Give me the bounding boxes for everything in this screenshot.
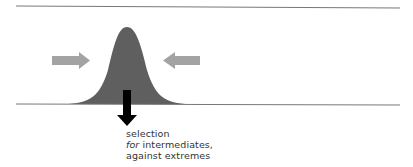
caption-line-3: against extremes bbox=[126, 150, 213, 161]
right-arrow-icon bbox=[163, 52, 200, 69]
top-boundary-line bbox=[16, 6, 400, 8]
caption-intermediates: intermediates, bbox=[139, 139, 213, 150]
caption-for-italic: for bbox=[126, 139, 139, 150]
caption-line-2: for intermediates, bbox=[126, 139, 213, 150]
baseline-line bbox=[16, 104, 400, 105]
selection-caption: selection for intermediates, against ext… bbox=[126, 128, 213, 161]
caption-line-1: selection bbox=[126, 128, 213, 139]
left-arrow-icon bbox=[52, 52, 90, 69]
